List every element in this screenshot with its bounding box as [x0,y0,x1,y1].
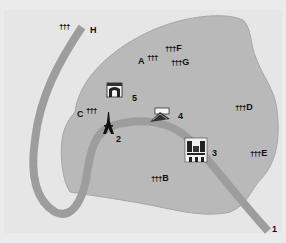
landmark-number-3: 3 [212,149,217,158]
city-map [0,0,286,243]
cemetery-label-a: A [138,57,145,66]
cemetery-label-e: E [261,149,267,158]
cemetery-crosses-icon: ††† [165,45,175,53]
cemetery-crosses-icon: ††† [86,107,96,115]
cemetery-crosses-icon: ††† [235,104,245,112]
cemetery-label-h: H [90,26,97,35]
cemetery-marker-g: ††† G [171,58,189,67]
landmark-number-4: 4 [178,112,183,121]
cemetery-crosses-icon: ††† [151,175,161,183]
cemetery-marker-a: ††† [147,54,157,62]
cemetery-marker-f: ††† F [165,44,182,53]
landmark-number-5: 5 [132,94,137,103]
landmark-number-1: 1 [272,225,277,234]
cemetery-label-c: C [77,110,84,119]
cemetery-crosses-icon: ††† [59,23,69,31]
cemetery-label-f: F [176,44,182,53]
cemetery-marker-b: ††† B [151,174,169,183]
cemetery-marker-h: ††† [59,23,69,31]
cemetery-label-b: B [162,174,169,183]
cemetery-marker-c: ††† [86,107,96,115]
notre-dame-cathedral-icon [185,138,207,162]
cemetery-label-g: G [182,58,189,67]
cemetery-marker-d: ††† D [235,103,253,112]
arc-de-triomphe-icon [107,83,122,97]
cemetery-crosses-icon: ††† [171,59,181,67]
cemetery-crosses-icon: ††† [147,54,157,62]
landmark-number-2: 2 [116,135,121,144]
cemetery-crosses-icon: ††† [250,150,260,158]
cemetery-label-d: D [246,103,253,112]
cemetery-marker-e: ††† E [250,149,267,158]
